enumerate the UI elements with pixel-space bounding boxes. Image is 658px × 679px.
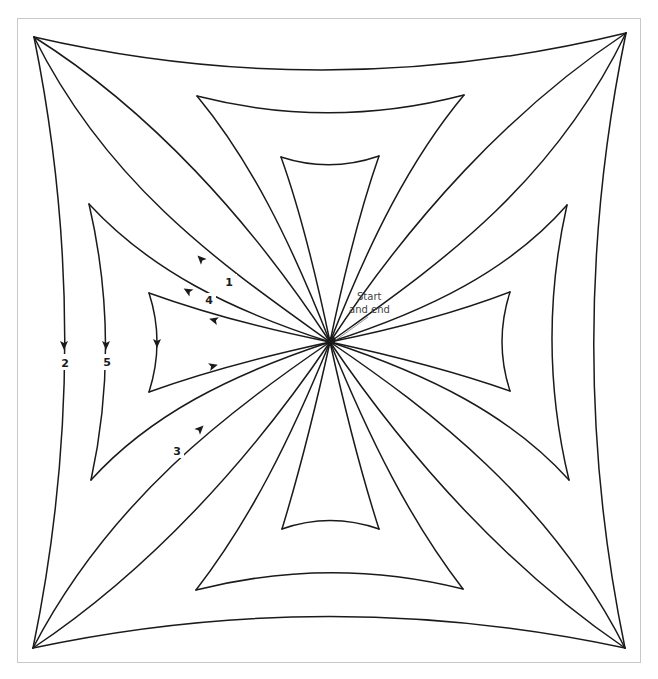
- curve-br-upper: [330, 342, 625, 648]
- top-inner-trap-edge: [281, 156, 379, 165]
- top-outer-trap-edge: [197, 95, 464, 113]
- left-outer-trap-bottom: [91, 342, 330, 480]
- bottom-outer-trap-right: [330, 342, 463, 589]
- arrow-left-inner-top-icon: [208, 315, 219, 325]
- curve-bl-lower: [33, 342, 330, 648]
- arrow-2-icon: [60, 341, 68, 350]
- curve-bl-upper: [33, 342, 330, 648]
- step-label-4: 4: [205, 294, 213, 307]
- top-outer-trap-left: [197, 96, 330, 342]
- outer-edge-top: [34, 33, 626, 70]
- bottom-outer-trap-edge: [196, 573, 463, 590]
- curve-tl-upper: [34, 37, 330, 342]
- arrow-1-icon: [195, 253, 207, 265]
- outer-edge-bottom: [33, 617, 625, 649]
- right-outer-trap-edge: [552, 205, 569, 480]
- curve-tl-lower: [34, 37, 330, 342]
- left-outer-trap-top: [89, 204, 330, 342]
- start-end-dot: [329, 337, 336, 344]
- start-label-line2: and end: [349, 304, 390, 315]
- outer-edge-left: [33, 37, 65, 648]
- right-inner-trap-bottom: [330, 342, 510, 391]
- step-label-3: 3: [173, 445, 181, 458]
- step-label-1: 1: [225, 276, 233, 289]
- step-label-5: 5: [103, 356, 111, 369]
- start-pointer-line: [336, 317, 368, 340]
- bottom-outer-trap-left: [196, 342, 330, 590]
- step-label-2: 2: [61, 357, 69, 370]
- left-inner-trap-bottom: [149, 342, 330, 392]
- right-outer-trap-top: [330, 205, 567, 342]
- right-outer-trap-bottom: [330, 342, 569, 480]
- right-inner-trap-edge: [502, 292, 510, 391]
- arrows-layer: [60, 253, 219, 435]
- top-inner-trap-left: [281, 157, 330, 342]
- bottom-inner-trap-edge: [282, 521, 379, 530]
- start-label-line1: Start: [357, 291, 382, 302]
- outer-edge-right: [594, 33, 626, 648]
- quilting-diagram: 14253 Start and end: [0, 0, 658, 679]
- curve-br-lower: [330, 342, 625, 648]
- arrow-4-icon: [182, 285, 194, 296]
- left-inner-trap-top: [149, 293, 330, 342]
- arrow-3-icon: [194, 423, 206, 435]
